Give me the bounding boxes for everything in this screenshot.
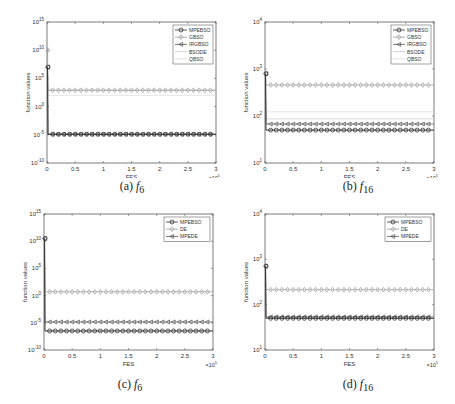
legend-label: MPEDE xyxy=(180,233,198,239)
chart-b: 10110210310400.511.522.53FES×105function… xyxy=(228,0,455,178)
legend: MPEBSODEMPEDE xyxy=(385,217,431,242)
svg-text:2.5: 2.5 xyxy=(184,166,193,172)
svg-text:10-5: 10-5 xyxy=(30,318,41,326)
legend: MPEBSOGBSOIRGBSOBSODEQBSO xyxy=(173,25,213,64)
svg-text:1: 1 xyxy=(102,166,106,172)
svg-text:2: 2 xyxy=(376,353,380,359)
svg-text:2: 2 xyxy=(158,166,162,172)
legend-label: MPEBSO xyxy=(189,27,211,33)
svg-text:105: 105 xyxy=(35,73,45,81)
svg-text:0: 0 xyxy=(263,353,267,359)
x-axis-label: FES xyxy=(126,174,138,178)
y-axis-label: function values xyxy=(243,72,249,112)
x-axis-label: FES xyxy=(344,174,356,178)
caption-d: (d) f16 xyxy=(278,377,438,393)
svg-text:1015: 1015 xyxy=(29,209,41,217)
svg-text:2: 2 xyxy=(376,166,380,172)
svg-text:1.5: 1.5 xyxy=(345,353,354,359)
svg-text:1010: 1010 xyxy=(29,236,41,244)
svg-text:0.5: 0.5 xyxy=(289,353,298,359)
chart-c: 10-1010-51001051010101500.511.522.53FES×… xyxy=(0,196,228,374)
svg-text:1: 1 xyxy=(320,353,324,359)
svg-text:2: 2 xyxy=(155,353,159,359)
legend-label: MPEBSO xyxy=(180,219,202,225)
svg-text:101: 101 xyxy=(253,158,263,166)
svg-text:3: 3 xyxy=(211,353,215,359)
legend: MPEBSODEMPEDE xyxy=(164,217,210,242)
svg-text:×105: ×105 xyxy=(426,360,438,368)
chart-d: 10110210310400.511.522.53FES×105function… xyxy=(228,196,455,374)
caption-b: (b) f16 xyxy=(278,179,438,195)
svg-text:0: 0 xyxy=(263,166,267,172)
svg-text:×105: ×105 xyxy=(426,173,438,178)
caption-c: (c) f6 xyxy=(50,377,210,393)
legend-label: MPEBSO xyxy=(401,219,423,225)
y-axis-label: function values xyxy=(22,262,28,302)
svg-text:1: 1 xyxy=(99,353,103,359)
legend-label: IRGBSO xyxy=(407,41,427,47)
svg-text:3: 3 xyxy=(214,166,218,172)
chart-panel-c: 10-1010-51001051010101500.511.522.53FES×… xyxy=(0,196,228,404)
svg-text:3: 3 xyxy=(432,166,436,172)
legend-label: QBSO xyxy=(189,56,204,62)
svg-text:3: 3 xyxy=(432,353,436,359)
svg-text:103: 103 xyxy=(253,64,263,72)
svg-text:101: 101 xyxy=(253,345,263,353)
svg-text:×105: ×105 xyxy=(205,360,217,368)
svg-text:0.5: 0.5 xyxy=(289,166,298,172)
svg-text:10-10: 10-10 xyxy=(31,158,45,166)
svg-text:104: 104 xyxy=(253,209,263,217)
svg-text:10-10: 10-10 xyxy=(28,345,42,353)
chart-panel-b: 10110210310400.511.522.53FES×105function… xyxy=(228,0,455,200)
svg-text:102: 102 xyxy=(253,300,263,308)
legend-label: GBSO xyxy=(189,34,204,40)
svg-text:0.5: 0.5 xyxy=(71,166,80,172)
legend-label: GBSO xyxy=(407,34,422,40)
svg-text:2.5: 2.5 xyxy=(181,353,190,359)
chart-panel-d: 10110210310400.511.522.53FES×105function… xyxy=(228,196,455,404)
svg-text:1: 1 xyxy=(320,166,324,172)
chart-a: 10-1010-51001051010101500.511.522.53FES×… xyxy=(0,0,228,178)
svg-text:103: 103 xyxy=(253,254,263,262)
y-axis-label: function values xyxy=(243,262,249,302)
legend-label: QBSO xyxy=(407,56,422,62)
caption-a: (a) f6 xyxy=(52,179,212,195)
y-axis-label: function values xyxy=(25,72,31,112)
svg-text:1.5: 1.5 xyxy=(345,166,354,172)
svg-text:100: 100 xyxy=(35,102,45,110)
legend-label: MPEDE xyxy=(401,233,419,239)
svg-text:1.5: 1.5 xyxy=(127,166,136,172)
legend: MPEBSOGBSOIRGBSOBSODEQBSO xyxy=(391,25,431,64)
svg-text:2.5: 2.5 xyxy=(402,166,411,172)
svg-text:×105: ×105 xyxy=(208,173,220,178)
svg-text:105: 105 xyxy=(32,263,42,271)
svg-text:0: 0 xyxy=(42,353,46,359)
legend-label: BSODE xyxy=(407,49,425,55)
legend-label: DE xyxy=(401,226,409,232)
svg-text:2.5: 2.5 xyxy=(402,353,411,359)
x-axis-label: FES xyxy=(123,361,135,367)
legend-label: BSODE xyxy=(189,49,207,55)
x-axis-label: FES xyxy=(344,361,356,367)
legend-label: MPEBSO xyxy=(407,27,429,33)
svg-text:104: 104 xyxy=(253,17,263,25)
svg-text:10-5: 10-5 xyxy=(33,130,44,138)
legend-label: DE xyxy=(180,226,188,232)
svg-text:1010: 1010 xyxy=(32,45,44,53)
svg-text:100: 100 xyxy=(32,291,42,299)
svg-text:102: 102 xyxy=(253,111,263,119)
svg-text:0.5: 0.5 xyxy=(68,353,77,359)
svg-text:0: 0 xyxy=(45,166,49,172)
legend-label: IRGBSO xyxy=(189,41,209,47)
chart-panel-a: 10-1010-51001051010101500.511.522.53FES×… xyxy=(0,0,228,200)
svg-text:1.5: 1.5 xyxy=(124,353,133,359)
svg-text:1015: 1015 xyxy=(32,17,44,25)
